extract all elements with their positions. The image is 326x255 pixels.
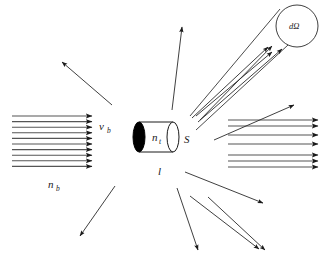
beam-velocity-subscript: b (107, 126, 111, 135)
solid-angle-label: dΩ (289, 21, 299, 31)
label-target-density: n t (152, 131, 162, 146)
target-area-label: S (184, 133, 190, 145)
label-beam-density: n b (48, 178, 60, 193)
target-length-label: l (158, 165, 161, 177)
target-density-subscript: t (159, 137, 162, 146)
scattering-diagram: v b n b n t S l dΩ (0, 0, 326, 255)
beam-density-symbol: n (48, 178, 54, 190)
diagram-labels: v b n b n t S l dΩ (0, 0, 326, 255)
beam-density-subscript: b (56, 184, 60, 193)
label-beam-velocity: v b (99, 120, 111, 135)
target-density-symbol: n (152, 131, 158, 143)
beam-velocity-symbol: v (99, 120, 104, 132)
